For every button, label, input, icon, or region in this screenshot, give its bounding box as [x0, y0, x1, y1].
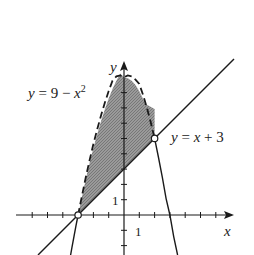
intersection-point-right	[151, 135, 157, 141]
x-axis-label: x	[223, 223, 231, 239]
parabola-equation-label: y = 9 − x2	[26, 83, 86, 101]
region-diagram: y x 1 1 y = 9 − x2 y = x + 3	[0, 0, 254, 255]
line-equation-label: y = x + 3	[169, 129, 224, 145]
x-tick-label-1: 1	[135, 224, 142, 239]
parabola-right-branch	[155, 138, 178, 255]
y-axis-label: y	[108, 59, 117, 75]
intersection-point-left	[75, 212, 81, 218]
y-tick-label-1: 1	[112, 193, 119, 208]
